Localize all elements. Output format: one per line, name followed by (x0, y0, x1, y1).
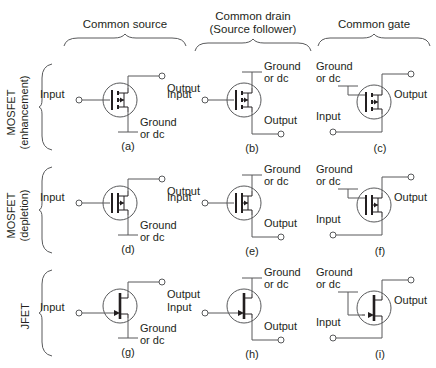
row-brace-icon (38, 268, 54, 362)
panel-c: Ground or dc Output Input (c) (318, 62, 436, 157)
row-label-jfet: JFET (19, 266, 32, 366)
panel-c-caption: (c) (360, 142, 400, 154)
panel-e: Input Ground or dc Output (e) (200, 165, 325, 260)
panel-i-input-label: Input (316, 316, 340, 328)
column-header-label: Common source (83, 18, 167, 30)
panel-b-input-label: Input (167, 88, 191, 100)
panel-g-ground-label: Ground or dc (140, 322, 177, 346)
panel-d-ground-label: Ground or dc (140, 219, 177, 243)
panel-f: Ground or dc Output Input (f) (318, 165, 436, 260)
row-label-mosfet-depletion: MOSFET (depletion) (5, 166, 30, 266)
panel-g: Input Output Ground or dc (g) (62, 268, 192, 363)
panel-e-input-label: Input (167, 191, 191, 203)
panel-d-caption: (d) (108, 243, 148, 255)
panel-a: Input Output Ground or dc (a) (62, 62, 192, 157)
panel-e-caption: (e) (232, 245, 272, 257)
panel-i: Ground or dc Output Input (i) (318, 268, 436, 363)
header-brace-icon (62, 33, 188, 50)
row-label-line1: MOSFET (5, 90, 17, 136)
panel-f-caption: (f) (360, 245, 400, 257)
panel-i-output-label: Output (394, 294, 427, 306)
panel-f-ground-label: Ground or dc (316, 163, 353, 187)
row-brace-icon (38, 62, 54, 156)
row-brace-icon (38, 165, 54, 259)
panel-a-caption: (a) (108, 140, 148, 152)
column-header-common-gate: Common gate (316, 18, 432, 50)
panel-g-output-label: Output (167, 288, 200, 300)
row-label-line1: JFET (19, 303, 31, 329)
panel-a-ground-label: Ground or dc (140, 116, 177, 140)
panel-g-input-label: Input (40, 301, 64, 313)
panel-e-ground-label: Ground or dc (264, 163, 301, 187)
column-header-sublabel: (Source follower) (210, 23, 297, 35)
panel-c-input-label: Input (316, 110, 340, 122)
panel-b: Input Ground or dc Output (b) (200, 62, 325, 157)
panel-g-caption: (g) (108, 346, 148, 358)
column-header-label: Common gate (338, 18, 410, 30)
panel-h-ground-label: Ground or dc (264, 266, 301, 290)
panel-a-input-label: Input (40, 88, 64, 100)
column-header-common-drain: Common drain (Source follower) (193, 10, 313, 55)
panel-c-output-label: Output (394, 88, 427, 100)
header-brace-icon (316, 33, 432, 50)
header-brace-icon (193, 38, 313, 55)
panel-d: Input Output Ground or dc (d) (62, 165, 192, 260)
panel-f-input-label: Input (316, 213, 340, 225)
row-label-line2: (enhancement) (17, 63, 30, 163)
panel-c-ground-label: Ground or dc (316, 60, 353, 84)
panel-e-output-label: Output (264, 217, 297, 229)
panel-b-output-label: Output (264, 114, 297, 126)
panel-h-caption: (h) (232, 348, 272, 360)
panel-b-caption: (b) (232, 142, 272, 154)
panel-i-caption: (i) (360, 348, 400, 360)
panel-h-output-label: Output (264, 320, 297, 332)
column-header-common-source: Common source (62, 18, 188, 50)
fet-configuration-diagram: Common source Common drain (Source follo… (0, 0, 436, 368)
panel-b-ground-label: Ground or dc (264, 60, 301, 84)
panel-h-input-label: Input (167, 301, 191, 313)
panel-f-output-label: Output (394, 191, 427, 203)
row-label-mosfet-enhancement: MOSFET (enhancement) (5, 63, 30, 163)
column-header-label: Common drain (215, 10, 290, 22)
row-label-line2: (depletion) (17, 166, 30, 266)
panel-d-input-label: Input (40, 191, 64, 203)
row-label-line1: MOSFET (5, 193, 17, 239)
panel-h: Input Ground or dc Output (h) (200, 268, 325, 363)
panel-i-ground-label: Ground or dc (316, 266, 353, 290)
